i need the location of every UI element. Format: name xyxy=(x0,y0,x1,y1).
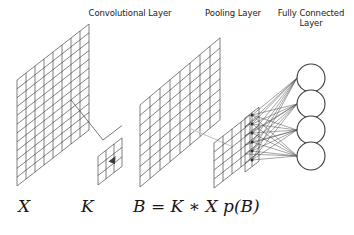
convolutional-layer-label: Convolutional Layer xyxy=(64,8,196,18)
dense-neuron-3 xyxy=(297,116,325,144)
pool-output-math-label: p(B) xyxy=(223,196,260,216)
conv-output-math-label: B = K ∗ X xyxy=(133,196,218,216)
kernel-math-label: K xyxy=(81,196,94,216)
fully-connected-layer-label: Fully Connected Layer xyxy=(268,8,354,28)
dense-neuron-1 xyxy=(297,64,325,92)
pooling-layer-label: Pooling Layer xyxy=(196,8,270,18)
input-math-label: X xyxy=(18,196,30,216)
dense-neuron-2 xyxy=(297,90,325,118)
dense-neuron-4 xyxy=(297,142,325,170)
